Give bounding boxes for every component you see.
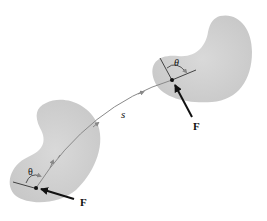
body-start <box>10 100 101 202</box>
angle-label-start: θ <box>28 166 33 177</box>
angle-label-end: θ <box>174 57 179 68</box>
force-label-end: F <box>193 120 200 132</box>
force-label-start: F <box>80 196 87 208</box>
diagram-canvas: s θ F θ F <box>0 0 267 221</box>
body-end <box>152 15 252 102</box>
path-length-label: s <box>121 108 125 120</box>
point-end <box>170 78 174 82</box>
point-start <box>34 186 38 190</box>
